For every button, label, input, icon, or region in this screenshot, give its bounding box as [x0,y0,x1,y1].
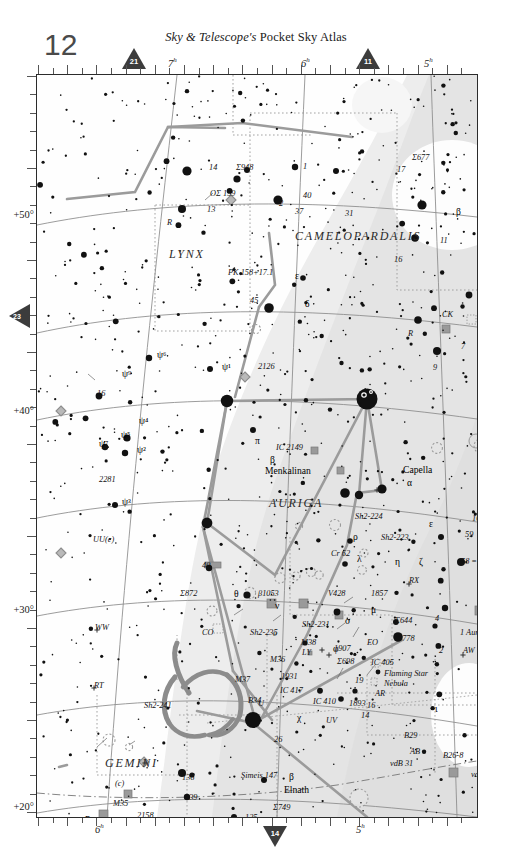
object-label: 37 [294,207,304,216]
object-label: 125 [245,813,257,817]
dec-label-20: +20° [0,801,34,812]
object-label: 1 [303,162,307,171]
constellation-name: CAMELOPARDALIS [295,229,421,243]
object-label: 13 [207,205,215,214]
object-label: Nebula [383,679,408,688]
dec-label-40: +40° [0,405,34,416]
object-label: Sh2-224 [355,512,383,521]
object-label: 2126 [258,362,275,371]
bayer-letter-label: ν [275,600,280,611]
bayer-letter-label: ψ² [137,444,146,455]
object-label: 40 [303,191,312,200]
object-label: EO [366,638,378,647]
object-label: 17 [397,165,406,174]
object-label: 40 [202,561,211,570]
object-label: 14 [361,711,369,720]
object-label: UU(c) [93,535,114,544]
star-proper-name: Elnath [284,784,309,795]
object-label: 45 [250,296,258,305]
bayer-letter-label: ψ⁹ [122,368,132,379]
constellation-name: LYNX [168,247,205,261]
ra-label-top-7h: 7h [168,56,177,69]
object-label: Σ948 [235,163,254,172]
object-label: Flaming Star [383,669,429,678]
bayer-letter-label: ψ³ [122,496,131,507]
object-label: Simeis 147 [241,771,278,780]
object-label: AW [462,646,476,655]
bayer-letter-label: λ [357,553,362,564]
bayer-letter-label: ψ⁶ [157,349,166,360]
object-label: 1664 [472,514,477,523]
object-label: (c) [115,779,124,788]
object-label: 16 [367,701,376,710]
bayer-letter-label: β [270,454,275,465]
bayer-letter-label: ψ⁴ [139,415,149,426]
object-label: AB [409,747,420,756]
bayer-letter-label: ρ [353,531,358,542]
object-label: Σ677 [411,153,430,162]
object-label: 58 = e [461,557,477,566]
object-label: vdB 29 [471,770,477,779]
bayer-letter-label: ψ⁷ [99,438,108,449]
object-label: M37 [234,675,251,684]
object-label: AR [374,689,385,698]
object-label: 139 [185,793,198,802]
object-label: 26 [274,735,283,744]
bayer-letter-label: β [289,771,294,782]
object-label: R [166,218,172,227]
bayer-letter-label: χ [296,712,302,723]
page-link-triangle-down[interactable]: 14 [262,825,288,848]
object-label: Σ749 [272,803,291,812]
object-label: vdB 31 [390,759,413,768]
star-proper-name: Capella [403,464,433,475]
star-proper-name: Menkalinan [265,465,311,476]
object-label: Sh2-241 [144,701,172,710]
bayer-letter-label: η [395,556,400,567]
object-label: WW [95,623,110,632]
atlas-page: Sky & Telescope's Pocket Sky Atlas 12 21… [0,0,512,863]
bayer-letter-label: δ [305,298,310,309]
masthead-title-rest: Pocket Sky Atlas [257,30,347,44]
object-label: 2 [439,646,443,655]
ra-label-top-5h: 5h [424,56,433,69]
bayer-letter-label: ψ¹ [222,361,231,372]
object-label: U [258,699,265,708]
object-label: RT [93,681,105,690]
bayer-letter-label: ε [429,518,433,529]
page-link-label: 14 [262,825,288,848]
object-label: Σ644 [394,616,412,625]
bayer-letter-label: β [456,206,461,217]
object-label: 59 [465,530,474,539]
object-label: Sh2-231 [302,620,330,629]
object-label: υ [273,629,277,638]
object-label: B29 [404,731,418,740]
object-label: IC 410 [312,697,337,706]
object-label: UV [326,716,338,725]
object-label: IC 2149 [275,443,304,452]
object-label: 1 Aur [460,628,477,637]
constellation-name: GEMINI [105,756,158,770]
bayer-letter-label: ψ⁵ [121,429,130,440]
object-label: 16 [97,389,106,398]
object-label: R [407,329,413,338]
dec-label-50: +50° [0,209,34,220]
page-number: 12 [44,28,77,62]
object-label: 1931 [281,672,298,681]
object-label: Sh2-223 [381,533,409,542]
object-label: M38 [300,638,317,647]
object-label: 2158 [137,811,154,817]
object-label: 136 [182,773,195,782]
object-label: CO [202,628,214,637]
star-chart-canvas: LYNXCAMELOPARDALISAURIGAGEMINIORIONTAURU… [37,75,477,817]
constellation-name: AURIGA [268,496,323,510]
object-label: 1907 [334,644,351,653]
bayer-letter-label: ζ [419,556,423,568]
star-chart[interactable]: LYNXCAMELOPARDALISAURIGAGEMINIORIONTAURU… [36,74,478,818]
page-link-triangle-left[interactable]: 23 [8,303,31,329]
object-label: IC 417 [279,686,304,695]
object-label: β1053 [257,589,279,598]
object-label: 19 [355,676,364,685]
bayer-letter-label: ι [435,703,438,714]
object-label: CK [442,310,454,319]
object-label: V428 [328,589,346,598]
